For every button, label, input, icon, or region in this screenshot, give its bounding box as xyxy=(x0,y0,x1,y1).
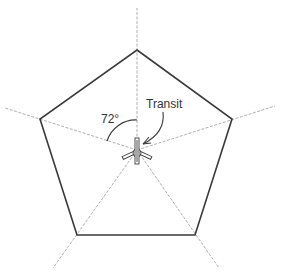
pentagon-diagram: 72° Transit xyxy=(0,0,297,274)
leader-arrow xyxy=(143,112,163,144)
transit-label: Transit xyxy=(146,97,183,111)
ray-lower-left xyxy=(53,150,137,268)
ray-upper-right xyxy=(137,106,275,150)
ray-lower-right xyxy=(137,150,219,268)
angle-label: 72° xyxy=(101,112,119,126)
